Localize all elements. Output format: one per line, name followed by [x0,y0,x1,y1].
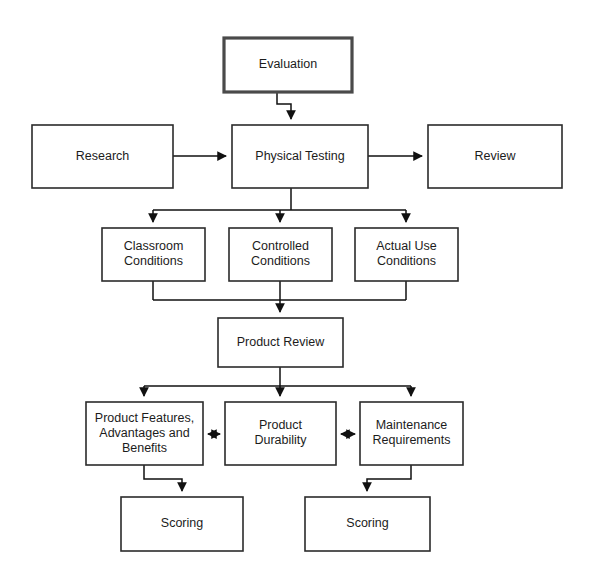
node-controlled-conditions[interactable]: ControlledConditions [229,228,332,281]
node-label-classroom-conditions: Classroom [124,239,184,253]
node-maintenance-requirements[interactable]: MaintenanceRequirements [360,402,463,465]
node-classroom-conditions[interactable]: ClassroomConditions [102,228,205,281]
node-label-maintenance-requirements: Maintenance [376,418,448,432]
node-label-controlled-conditions: Controlled [252,239,309,253]
node-actual-use-conditions[interactable]: Actual UseConditions [355,228,458,281]
node-product-durability[interactable]: ProductDurability [225,402,336,465]
flowchart-svg: EvaluationResearchPhysical TestingReview… [0,0,592,575]
node-label-maintenance-requirements: Requirements [373,433,451,447]
node-evaluation[interactable]: Evaluation [224,38,352,92]
node-label-controlled-conditions: Conditions [251,254,310,268]
node-product-features[interactable]: Product Features,Advantages andBenefits [86,402,203,465]
features-to-scoring-left [144,465,182,491]
node-label-physical-testing: Physical Testing [255,149,344,163]
node-label-classroom-conditions: Conditions [124,254,183,268]
node-research[interactable]: Research [32,125,173,188]
evaluation-to-physical-testing [277,92,291,119]
node-label-product-durability: Durability [254,433,307,447]
node-label-product-features: Product Features, [95,411,194,425]
node-label-product-features: Benefits [122,441,167,455]
node-layer: EvaluationResearchPhysical TestingReview… [32,38,562,551]
node-label-actual-use-conditions: Actual Use [376,239,436,253]
node-scoring-right[interactable]: Scoring [305,497,430,551]
node-label-research: Research [76,149,130,163]
node-scoring-left[interactable]: Scoring [121,497,243,551]
node-label-product-review: Product Review [237,335,326,349]
node-label-actual-use-conditions: Conditions [377,254,436,268]
node-label-product-features: Advantages and [99,426,189,440]
node-physical-testing[interactable]: Physical Testing [232,125,368,188]
node-product-review[interactable]: Product Review [218,318,343,367]
node-label-evaluation: Evaluation [259,57,317,71]
node-label-product-durability: Product [259,418,303,432]
node-label-scoring-left: Scoring [161,516,203,530]
node-label-review: Review [475,149,517,163]
node-label-scoring-right: Scoring [346,516,388,530]
maintenance-to-scoring-right [367,465,411,491]
flowchart-canvas: EvaluationResearchPhysical TestingReview… [0,0,592,575]
node-review[interactable]: Review [428,125,562,188]
